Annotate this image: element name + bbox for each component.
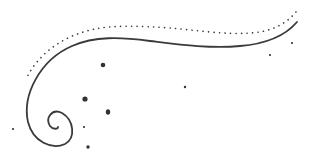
dot	[184, 86, 186, 88]
swirl-ornament	[0, 0, 317, 163]
swirl-curve	[27, 22, 297, 146]
ornament-canvas	[0, 0, 317, 163]
dot	[291, 42, 293, 44]
dot	[106, 109, 110, 115]
dot	[86, 145, 89, 148]
dot	[269, 54, 271, 56]
dot	[82, 96, 87, 101]
dot	[12, 128, 14, 130]
dot	[83, 126, 85, 128]
dot	[101, 63, 106, 68]
